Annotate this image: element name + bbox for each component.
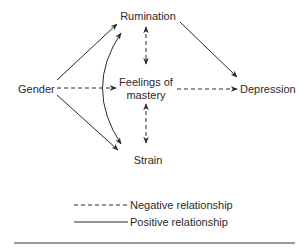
- node-mastery-line1: Feelings of: [119, 76, 173, 88]
- node-gender: Gender: [18, 83, 55, 95]
- legend-positive-label: Positive relationship: [130, 216, 228, 228]
- edge-gender-rumination: [57, 24, 117, 80]
- edge-rumination-strain-curve: [103, 33, 122, 144]
- node-strain: Strain: [134, 154, 163, 166]
- edge-gender-strain: [57, 95, 118, 150]
- edge-rumination-depression: [180, 22, 237, 77]
- node-depression: Depression: [240, 83, 296, 95]
- node-mastery-line2: mastery: [126, 89, 165, 101]
- node-rumination: Rumination: [120, 10, 176, 22]
- legend-negative-label: Negative relationship: [130, 199, 233, 211]
